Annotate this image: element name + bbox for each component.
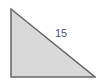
hypotenuse-label: 15 — [55, 27, 67, 39]
right-triangle — [11, 9, 95, 77]
triangle-diagram: 15 — [0, 0, 96, 81]
